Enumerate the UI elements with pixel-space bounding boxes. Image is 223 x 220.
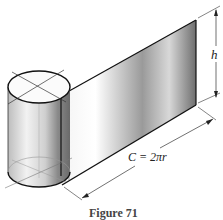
height-dimension: h — [198, 6, 220, 103]
height-label: h — [211, 47, 218, 62]
figure-caption: Figure 71 — [89, 206, 138, 220]
figure-diagram: h C = 2πr Figure 71 — [0, 0, 223, 220]
cylinder — [5, 70, 72, 188]
circumference-label: C = 2πr — [128, 150, 167, 164]
